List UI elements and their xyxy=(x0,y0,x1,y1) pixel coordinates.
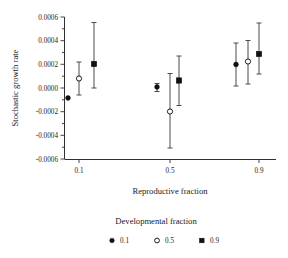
legend-entry-0.9[interactable]: 0.9 xyxy=(200,237,220,245)
open-circle-icon xyxy=(155,238,160,243)
data-point-rf0.1-df0.5 xyxy=(76,62,81,95)
x-tick-label: 0.9 xyxy=(255,167,264,175)
data-point-rf0.5-df0.5 xyxy=(167,74,172,149)
data-point-rf0.5-df0.1 xyxy=(155,84,160,92)
y-tick-label: -0.0004 xyxy=(36,132,59,140)
y-tick-label: 0.0002 xyxy=(38,61,58,69)
data-point-rf0.9-df0.9 xyxy=(256,23,261,74)
x-tick-label: 0.5 xyxy=(166,167,175,175)
x-axis-ticks xyxy=(79,160,259,164)
y-axis-major-ticks xyxy=(61,17,65,159)
data-group-rf-0.1 xyxy=(66,23,97,101)
filled-circle-icon xyxy=(110,238,115,243)
data-point-rf0.9-df0.5 xyxy=(245,41,250,85)
y-tick-label: -0.0006 xyxy=(36,156,59,164)
y-tick-label: 0.0000 xyxy=(38,85,58,93)
data-point-rf0.1-df0.9 xyxy=(91,23,96,89)
legend-label: 0.1 xyxy=(120,237,129,245)
y-tick-label: -0.0002 xyxy=(36,108,59,116)
x-axis-title: Reproductive fraction xyxy=(132,186,208,196)
legend-entry-0.1[interactable]: 0.1 xyxy=(110,237,130,245)
data-point-rf0.1-df0.1 xyxy=(66,96,71,101)
y-tick-label: 0.0006 xyxy=(38,14,58,22)
filled-square-icon xyxy=(200,238,205,243)
stochastic-growth-rate-chart: 0.0006 0.0004 0.0002 0.0000 -0.0002 -0.0… xyxy=(0,0,288,258)
legend-label: 0.5 xyxy=(165,237,174,245)
data-group-rf-0.9 xyxy=(234,23,262,86)
y-axis-title: Stochastic growth rate xyxy=(10,49,20,126)
legend-entry-0.5[interactable]: 0.5 xyxy=(155,237,175,245)
legend-label: 0.9 xyxy=(210,237,219,245)
figure-container: 0.0006 0.0004 0.0002 0.0000 -0.0002 -0.0… xyxy=(0,0,288,258)
x-tick-label: 0.1 xyxy=(75,167,84,175)
data-point-rf0.5-df0.9 xyxy=(176,56,181,106)
data-group-rf-0.5 xyxy=(155,56,182,148)
data-point-rf0.9-df0.1 xyxy=(234,43,239,86)
legend: Developmental fraction 0.1 0.5 0.9 xyxy=(110,216,220,245)
legend-title: Developmental fraction xyxy=(115,216,197,226)
y-tick-label: 0.0004 xyxy=(38,37,58,45)
